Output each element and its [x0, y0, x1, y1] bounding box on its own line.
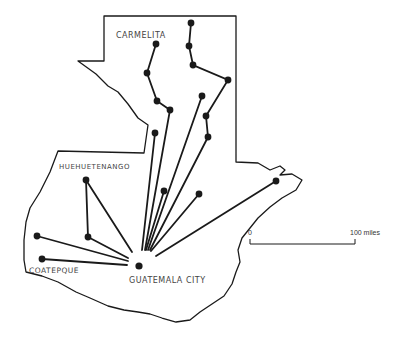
label-coatepque: COATEPQUE — [29, 266, 79, 275]
guatemala-map — [0, 0, 405, 350]
label-guatemala-city: GUATEMALA CITY — [129, 276, 206, 285]
label-carmelita: CARMELITA — [116, 31, 166, 40]
guatemala-city-dot — [135, 262, 142, 269]
scale-end-label: 100 miles — [350, 229, 380, 236]
scale-bar — [250, 239, 355, 244]
city-nodes — [34, 20, 280, 270]
label-huehuetenango: HUEHUETENANGO — [59, 163, 130, 171]
scale-start-label: 0 — [248, 229, 252, 236]
route-lines — [37, 23, 276, 265]
